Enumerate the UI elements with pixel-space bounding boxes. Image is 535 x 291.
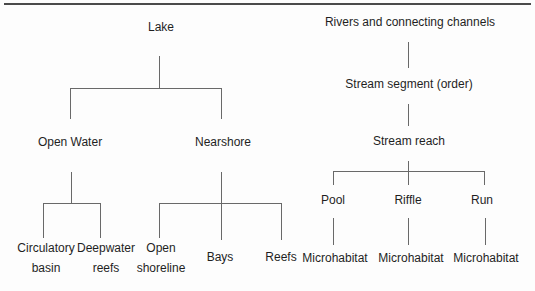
node-deepwater-reefs-line1: Deepwater [77,238,135,258]
node-open-shoreline-line1: Open [137,238,186,258]
connector-open-water-hbar [43,203,101,204]
connector-open-water-drop [70,88,71,119]
connector-nearshore-hbar [159,203,282,204]
node-microhabitat-riffle: Microhabitat [378,251,443,265]
node-deepwater-reefs-line2: reefs [77,258,135,278]
node-lake: Lake [148,20,174,34]
top-rule [4,3,531,5]
node-pool: Pool [321,193,345,207]
node-deepwater-reefs: Deepwater reefs [77,238,135,278]
node-stream-reach: Stream reach [373,134,445,148]
node-microhabitat-run: Microhabitat [453,251,518,265]
connector-riffle-microhabitat-stem [408,218,409,245]
node-nearshore: Nearshore [195,135,251,149]
node-riffle: Riffle [394,193,421,207]
connector-riffle-drop [408,171,409,185]
habitat-hierarchy-diagram: Lake Open Water Nearshore Circulatory ba… [0,0,535,291]
connector-nearshore-stem [221,172,222,240]
node-circulatory-basin-line2: basin [17,258,74,278]
connector-nearshore-drop [221,88,222,119]
connector-run-microhabitat-stem [485,218,486,245]
node-open-shoreline: Open shoreline [137,238,186,278]
connector-pool-drop [333,171,334,185]
connector-rivers-stem [408,42,409,68]
connector-stream-segment-stem [408,104,409,126]
node-circulatory-basin-line1: Circulatory [17,238,74,258]
node-open-water: Open Water [38,135,102,149]
connector-stream-reach-hbar [333,171,485,172]
connector-open-water-stem [71,172,72,203]
node-bays: Bays [207,250,234,264]
node-stream-segment: Stream segment (order) [345,77,472,91]
node-run: Run [471,193,493,207]
node-open-shoreline-line2: shoreline [137,258,186,278]
connector-circulatory-basin-drop [43,203,44,238]
connector-lake-stem [159,56,160,88]
connector-run-drop [484,171,485,185]
node-reefs: Reefs [265,250,296,264]
node-rivers: Rivers and connecting channels [325,15,495,29]
connector-deepwater-reefs-drop [100,203,101,238]
connector-open-shoreline-drop [159,203,160,238]
node-circulatory-basin: Circulatory basin [17,238,74,278]
connector-stream-reach-stem [408,161,409,171]
connector-pool-microhabitat-stem [333,218,334,245]
node-microhabitat-pool: Microhabitat [302,251,367,265]
connector-reefs-drop [281,203,282,240]
connector-lake-hbar [70,88,222,89]
